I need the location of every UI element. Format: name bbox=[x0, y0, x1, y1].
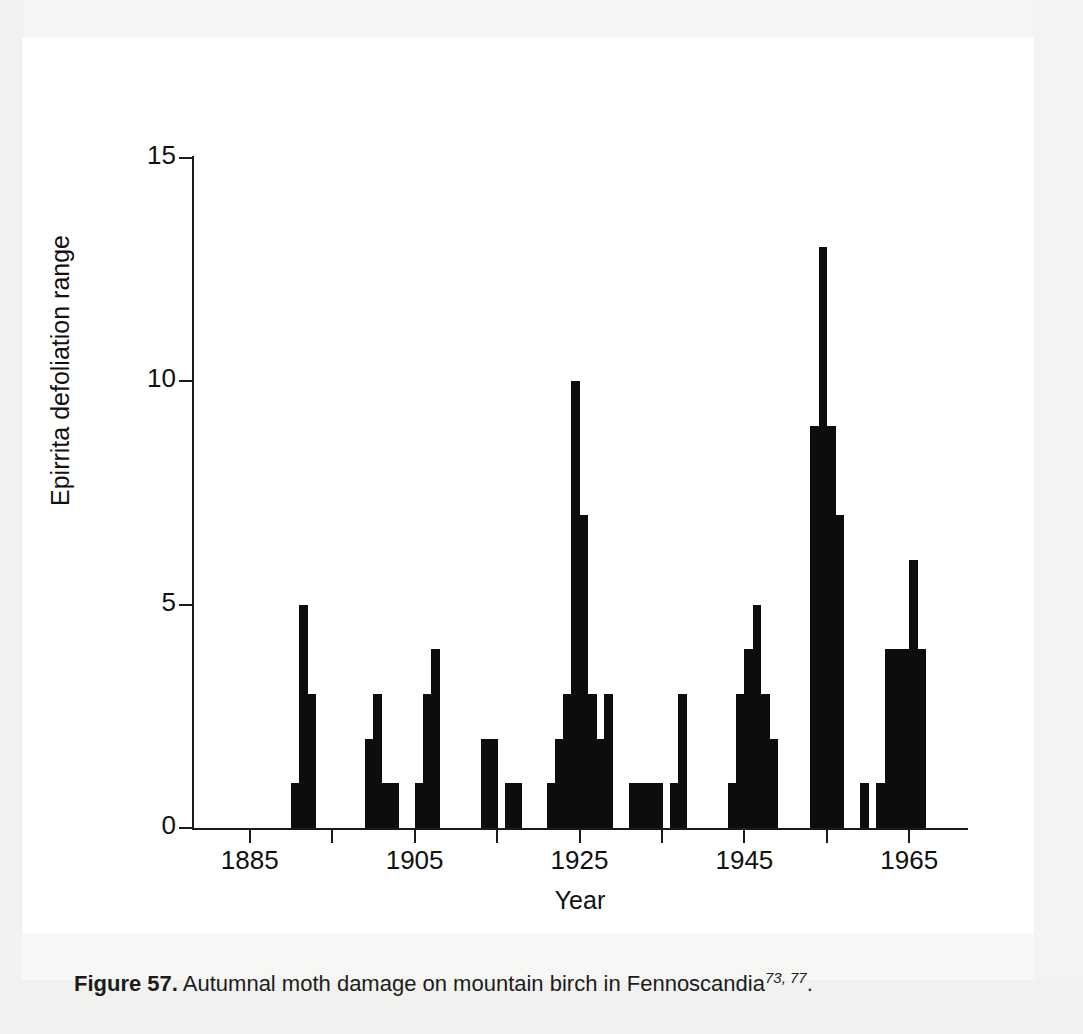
x-axis-tick bbox=[826, 829, 828, 843]
figure-caption-refs: 73, 77 bbox=[765, 969, 807, 986]
paper-texture-left bbox=[0, 0, 24, 1034]
y-axis-tick bbox=[179, 827, 192, 829]
y-axis-tick bbox=[179, 157, 192, 159]
bar-chart: 051015 18851905192519451965 Epirrita def… bbox=[22, 38, 1034, 934]
chart-bar bbox=[678, 694, 687, 828]
x-axis-tick bbox=[908, 829, 910, 843]
paper-texture-right bbox=[1034, 0, 1083, 1034]
x-axis-tick bbox=[249, 829, 251, 843]
chart-bar bbox=[604, 694, 613, 828]
x-axis-tick-label: 1965 bbox=[854, 846, 964, 875]
x-axis-tick bbox=[496, 829, 498, 843]
y-axis-tick-label: 10 bbox=[124, 365, 176, 391]
chart-bar bbox=[860, 783, 869, 828]
chart-bar bbox=[489, 739, 498, 828]
y-axis-title: Epirrita defoliation range bbox=[46, 111, 75, 631]
figure-caption-end: . bbox=[807, 971, 813, 996]
y-axis-tick-label: 5 bbox=[124, 589, 176, 615]
x-axis-tick-label: 1905 bbox=[360, 846, 470, 875]
y-axis-tick bbox=[179, 380, 192, 382]
figure-plate: 051015 18851905192519451965 Epirrita def… bbox=[22, 38, 1034, 934]
x-axis-tick bbox=[743, 829, 745, 843]
x-axis-tick bbox=[414, 829, 416, 843]
y-axis-tick-label: 15 bbox=[124, 142, 176, 168]
chart-bar bbox=[390, 783, 399, 828]
x-axis-tick-label: 1885 bbox=[195, 846, 305, 875]
x-axis-tick bbox=[661, 829, 663, 843]
figure-caption-text: Autumnal moth damage on mountain birch i… bbox=[178, 971, 765, 996]
y-axis-tick bbox=[179, 604, 192, 606]
paper-texture-top bbox=[0, 0, 1083, 36]
bars-container bbox=[192, 158, 967, 828]
x-axis-title: Year bbox=[192, 886, 968, 915]
chart-bar bbox=[835, 515, 844, 828]
figure-page: 051015 18851905192519451965 Epirrita def… bbox=[0, 0, 1083, 1034]
y-axis-tick-label: 0 bbox=[124, 812, 176, 838]
x-axis-tick bbox=[579, 829, 581, 843]
chart-bar bbox=[654, 783, 663, 828]
figure-number: Figure 57. bbox=[74, 971, 178, 996]
chart-bar bbox=[431, 649, 440, 828]
chart-bar bbox=[307, 694, 316, 828]
x-axis-tick-label: 1945 bbox=[689, 846, 799, 875]
x-axis-tick bbox=[331, 829, 333, 843]
figure-caption: Figure 57. Autumnal moth damage on mount… bbox=[74, 970, 1034, 998]
chart-bar bbox=[769, 739, 778, 828]
chart-bar bbox=[514, 783, 523, 828]
x-axis-tick-label: 1925 bbox=[525, 846, 635, 875]
chart-bar bbox=[918, 649, 927, 828]
